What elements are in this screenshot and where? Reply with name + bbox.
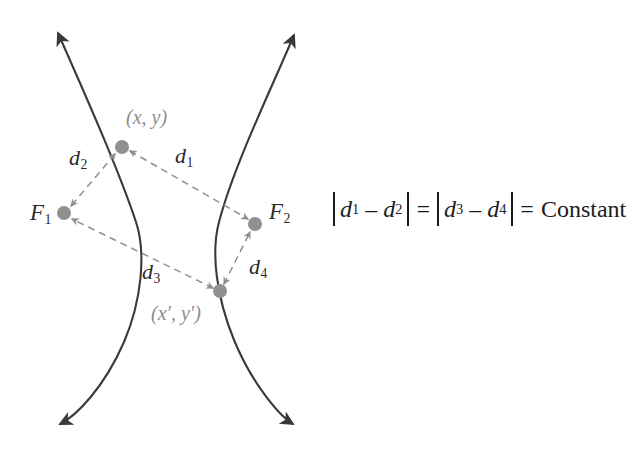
- point-marker-f1: [57, 206, 71, 220]
- distance-segment-d4: [224, 232, 250, 284]
- equation-d2: d: [383, 192, 395, 226]
- distance-label-d4-text: d: [249, 254, 260, 279]
- equation-constant-word: Constant: [541, 196, 626, 223]
- distance-label-d1-subscript: 1: [186, 155, 193, 170]
- distance-label-d1-text: d: [175, 143, 186, 168]
- abs-group-d3-d4: d3–d4: [437, 192, 513, 226]
- distance-label-d4-subscript: 4: [260, 266, 267, 281]
- distance-label-d3-subscript: 3: [153, 271, 160, 286]
- focus-label-f2: F2: [269, 199, 290, 227]
- point-marker-f2: [248, 217, 262, 231]
- equation-d1-subscript: 1: [352, 192, 359, 226]
- hyperbola-diagram-svg: [0, 0, 640, 453]
- constant-difference-equation: d1–d2 = d3–d4 = Constant: [333, 192, 626, 226]
- distance-label-d3: d3: [142, 259, 160, 287]
- focus-label-f1-text: F: [30, 200, 44, 225]
- distance-label-d2: d2: [69, 145, 87, 173]
- focus-label-f2-subscript: 2: [283, 211, 290, 226]
- point-marker-xprime-yprime: [213, 284, 227, 298]
- hyperbola-left-branch: [58, 33, 141, 424]
- equation-d4: d: [487, 192, 499, 226]
- equation-minus-1: –: [359, 192, 383, 226]
- abs-group-d1-d2: d1–d2: [333, 192, 409, 226]
- point-label-xprime-yprime: (x′, y′): [151, 302, 201, 325]
- focus-label-f1-subscript: 1: [44, 212, 51, 227]
- distance-label-d4: d4: [249, 254, 267, 282]
- focus-label-f1: F1: [30, 200, 51, 228]
- distance-label-d2-subscript: 2: [80, 157, 87, 172]
- focus-label-f2-text: F: [269, 199, 283, 224]
- distance-label-d3-text: d: [142, 259, 153, 284]
- equation-d4-subscript: 4: [499, 192, 506, 226]
- left-branch-curve: [58, 33, 141, 424]
- point-marker-xy: [115, 140, 129, 154]
- equation-equals-1: =: [409, 196, 437, 223]
- equation-equals-2: =: [513, 196, 541, 223]
- equation-d2-subscript: 2: [395, 192, 402, 226]
- equation-d3: d: [444, 192, 456, 226]
- distance-label-d1: d1: [175, 143, 193, 171]
- point-label-xy: (x, y): [126, 106, 167, 129]
- distance-label-d2-text: d: [69, 145, 80, 170]
- equation-d3-subscript: 3: [456, 192, 463, 226]
- equation-d1: d: [340, 192, 352, 226]
- d4-dashed-line: [224, 232, 250, 284]
- equation-minus-2: –: [463, 192, 487, 226]
